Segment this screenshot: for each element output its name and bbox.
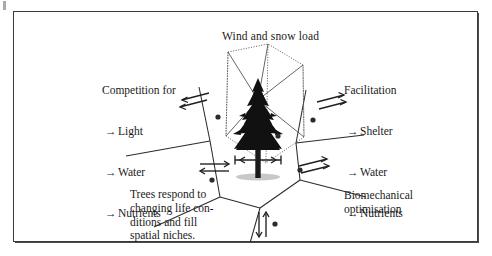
tree-branch [270, 113, 277, 117]
neighbour-dot-icon [297, 167, 302, 172]
cell-line-bottom-mid [220, 197, 260, 208]
cell-line-bottom-right [260, 180, 300, 208]
cell-line-right-mid [296, 143, 300, 180]
cell-line-right-lower [300, 180, 366, 197]
figure-canvas: Wind and snow load Competition for →Ligh… [0, 0, 492, 256]
arrow-mr-lower [301, 166, 329, 173]
double-diagonal-arrow-icon-upper-right [317, 93, 346, 110]
neighbour-dot-icon [272, 221, 277, 226]
arrow-ul-upper [182, 93, 209, 100]
crown-strut-right [258, 65, 303, 100]
cell-lines-group [126, 87, 366, 243]
tree-branch [239, 113, 246, 117]
neighbour-dot-icon [310, 117, 315, 122]
page-edge-artifact [3, 1, 6, 10]
cell-line-left-lower [210, 141, 220, 197]
cell-line-right-upper [296, 135, 364, 143]
tree-branch [233, 130, 241, 135]
conifer-tree-icon [233, 78, 283, 180]
neighbour-dot-icon [275, 133, 280, 138]
double-diagonal-arrow-icon-mid-right [299, 157, 329, 174]
cell-line-bottom-left [154, 197, 220, 227]
tree-trunk [255, 149, 260, 178]
cell-line-left-upper [126, 141, 210, 156]
arrow-ur-upper [317, 95, 344, 102]
arrow-ur-lower [319, 102, 346, 109]
neighbour-dot-icon [209, 177, 214, 182]
diagram-svg [14, 12, 479, 243]
figure-frame: Wind and snow load Competition for →Ligh… [13, 11, 478, 242]
double-diagonal-arrow-icon-upper-left [180, 93, 209, 110]
crown-strut-left [228, 52, 258, 100]
neighbour-dot-icon [215, 114, 220, 119]
arrow-mr-upper [299, 159, 327, 166]
